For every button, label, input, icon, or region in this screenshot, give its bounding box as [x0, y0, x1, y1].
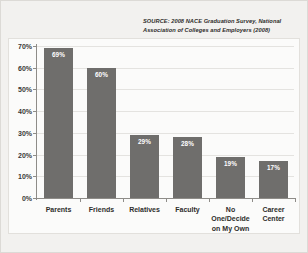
x-axis-category-label: Relatives: [123, 205, 166, 214]
x-axis-category-label: Friends: [80, 205, 123, 214]
category-label-line: on My Own: [209, 224, 252, 233]
category-label-line: Relatives: [123, 205, 166, 214]
bar-slot: 60%: [87, 46, 115, 198]
x-axis-line: [34, 198, 296, 199]
y-axis-tick-label: 50%: [18, 86, 32, 93]
bar-value-label: 17%: [259, 164, 287, 171]
y-axis-tick-mark: [33, 198, 37, 199]
y-axis-tick-mark: [33, 68, 37, 69]
bar-value-label: 69%: [44, 51, 72, 58]
bar-slot: 19%: [216, 46, 244, 198]
bar-slot: 29%: [130, 46, 158, 198]
x-axis-tick-mark: [252, 198, 253, 202]
bar[interactable]: 29%: [130, 135, 158, 198]
category-label-line: Friends: [80, 205, 123, 214]
x-axis-tick-mark: [80, 198, 81, 202]
bar[interactable]: 17%: [259, 161, 287, 198]
bar[interactable]: 69%: [44, 48, 72, 198]
y-axis-tick-label: 20%: [18, 151, 32, 158]
x-axis-category-label: CareerCenter: [252, 205, 295, 224]
bars-group: 69%60%29%28%19%17%: [37, 46, 295, 198]
x-axis-category-label: Parents: [37, 205, 80, 214]
bar-slot: 28%: [173, 46, 201, 198]
y-axis-tick-mark: [33, 111, 37, 112]
y-axis-tick-labels: 0%10%20%30%40%50%60%70%: [0, 0, 32, 253]
x-axis-tick-mark: [166, 198, 167, 202]
bar-value-label: 19%: [216, 160, 244, 167]
bar-value-label: 29%: [130, 138, 158, 145]
source-note: SOURCE: 2008 NACE Graduation Survey, Nat…: [143, 17, 301, 35]
y-axis-tick-label: 40%: [18, 108, 32, 115]
y-axis-tick-mark: [33, 176, 37, 177]
y-axis-tick-label: 60%: [18, 64, 32, 71]
y-axis-tick-label: 10%: [18, 173, 32, 180]
bar-slot: 17%: [259, 46, 287, 198]
y-axis-tick-mark: [33, 89, 37, 90]
category-label-line: Parents: [37, 205, 80, 214]
y-axis-tick-label: 30%: [18, 129, 32, 136]
x-axis-category-label: No One/Decideon My Own: [209, 205, 252, 233]
x-axis-category-label: Faculty: [166, 205, 209, 214]
x-axis-tick-mark: [209, 198, 210, 202]
y-axis-tick-mark: [33, 46, 37, 47]
x-axis-tick-mark: [295, 198, 296, 202]
category-label-line: Faculty: [166, 205, 209, 214]
category-label-line: No One/Decide: [209, 205, 252, 224]
bar[interactable]: 19%: [216, 157, 244, 198]
category-label-line: Center: [252, 214, 295, 223]
chart-figure: SOURCE: 2008 NACE Graduation Survey, Nat…: [0, 0, 308, 253]
y-axis-tick-label: 0%: [22, 195, 32, 202]
y-axis-tick-label: 70%: [18, 43, 32, 50]
category-label-line: Career: [252, 205, 295, 214]
bar-value-label: 60%: [87, 71, 115, 78]
bar[interactable]: 28%: [173, 137, 201, 198]
bar-value-label: 28%: [173, 140, 201, 147]
y-axis-tick-mark: [33, 155, 37, 156]
x-axis-tick-mark: [123, 198, 124, 202]
y-axis-tick-mark: [33, 133, 37, 134]
bar[interactable]: 60%: [87, 68, 115, 198]
bar-slot: 69%: [44, 46, 72, 198]
